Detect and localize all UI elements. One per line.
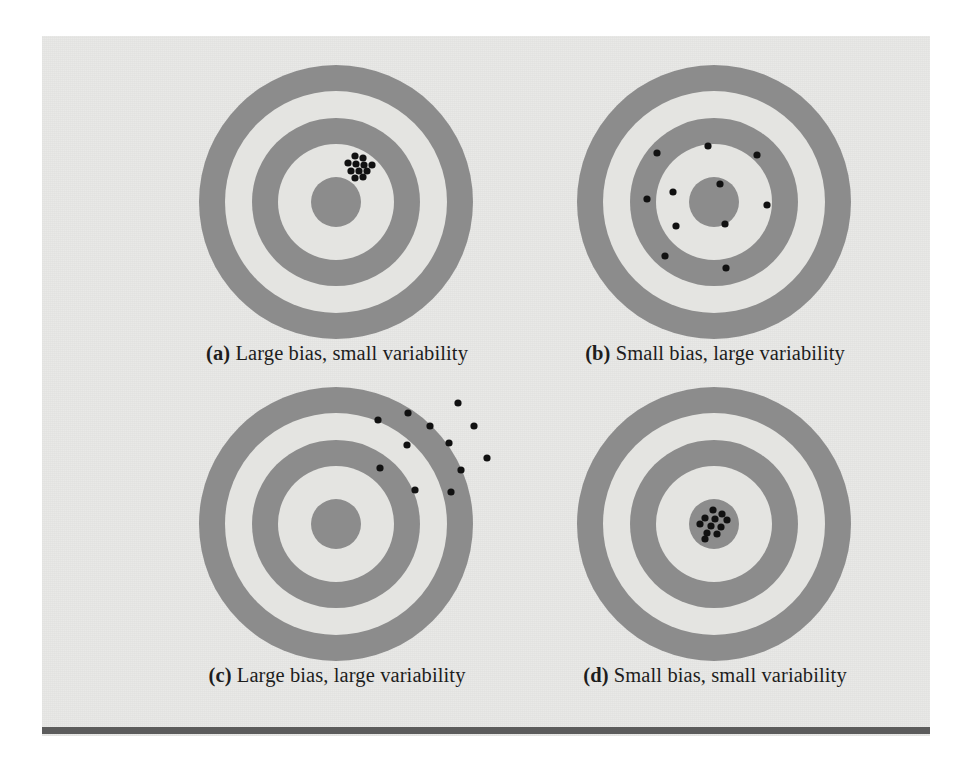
shot-marker <box>701 535 708 542</box>
shot-marker <box>653 149 660 156</box>
shot-marker <box>445 439 452 446</box>
shot-marker <box>717 523 724 530</box>
caption-a-label: (a) <box>206 342 230 364</box>
target-b <box>576 64 852 340</box>
target-rings-group <box>577 387 851 661</box>
shot-marker <box>707 522 714 529</box>
bullseye <box>311 499 361 549</box>
shot-marker <box>403 441 410 448</box>
shot-marker <box>359 154 366 161</box>
shot-marker <box>672 222 679 229</box>
shot-marker <box>447 488 454 495</box>
shot-marker <box>718 510 725 517</box>
shot-marker <box>721 220 728 227</box>
bullseye <box>689 177 739 227</box>
target-rings-group <box>577 65 851 339</box>
caption-b-text: Small bias, large variability <box>616 342 845 364</box>
caption-d-label: (d) <box>583 664 608 686</box>
target-c <box>198 386 474 662</box>
shot-marker <box>376 464 383 471</box>
caption-d: (d) Small bias, small variability <box>505 664 925 687</box>
shot-marker <box>457 466 464 473</box>
caption-b: (b) Small bias, large variability <box>505 342 925 365</box>
shot-marker <box>716 180 723 187</box>
target-rings-group <box>199 65 473 339</box>
shot-marker <box>404 409 411 416</box>
target-c-rings <box>198 386 474 662</box>
shot-marker <box>411 486 418 493</box>
shot-marker <box>470 422 477 429</box>
shot-marker <box>351 152 358 159</box>
caption-c: (c) Large bias, large variability <box>127 664 547 687</box>
caption-b-label: (b) <box>585 342 610 364</box>
shot-marker <box>454 399 461 406</box>
shot-marker <box>426 422 433 429</box>
shot-marker <box>352 160 359 167</box>
caption-a: (a) Large bias, small variability <box>127 342 547 365</box>
shot-marker <box>359 173 366 180</box>
target-d-rings <box>576 386 852 662</box>
shot-marker <box>711 515 718 522</box>
bullseye <box>311 177 361 227</box>
caption-c-label: (c) <box>209 664 232 686</box>
caption-c-text: Large bias, large variability <box>237 664 466 686</box>
shot-marker <box>701 514 708 521</box>
shot-marker <box>368 161 375 168</box>
shot-marker <box>483 454 490 461</box>
shot-marker <box>713 530 720 537</box>
shot-marker <box>696 520 703 527</box>
shot-marker <box>722 264 729 271</box>
target-a <box>198 64 474 340</box>
shot-marker <box>355 167 362 174</box>
target-b-rings <box>576 64 852 340</box>
shot-marker <box>363 167 370 174</box>
shot-marker <box>643 195 650 202</box>
shot-marker <box>344 159 351 166</box>
shot-marker <box>347 167 354 174</box>
shot-marker <box>704 142 711 149</box>
shot-marker <box>669 188 676 195</box>
shot-marker <box>753 151 760 158</box>
target-a-rings <box>198 64 474 340</box>
shot-marker <box>661 252 668 259</box>
figure-bottom-rule <box>42 727 930 734</box>
figure-page: (a) Large bias, small variability (b) Sm… <box>42 36 930 736</box>
shot-marker <box>763 201 770 208</box>
caption-d-text: Small bias, small variability <box>614 664 847 686</box>
caption-a-text: Large bias, small variability <box>235 342 468 364</box>
shot-marker <box>351 174 358 181</box>
shot-marker <box>723 516 730 523</box>
target-d <box>576 386 852 662</box>
shot-marker <box>709 506 716 513</box>
shot-marker <box>374 416 381 423</box>
